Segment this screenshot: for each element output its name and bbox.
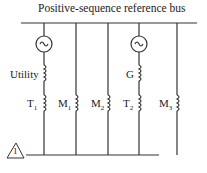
m3-inductor [177,95,179,111]
bus-marker-number: 1 [13,146,18,156]
label-utility: Utility [10,68,39,80]
g-impedance [139,65,141,81]
m2-inductor [108,95,110,111]
label-t2: T2 [123,97,133,112]
t1-inductor [44,95,46,111]
utility-impedance [44,65,46,81]
sequence-network-diagram: Positive-sequence reference bus [0,0,207,173]
label-t1: T1 [27,97,37,112]
label-m1: M1 [58,97,71,112]
label-m3: M3 [159,97,172,112]
label-g: G [126,68,134,80]
network-lines [0,0,207,173]
t2-inductor [139,95,141,111]
m1-inductor [76,95,78,111]
label-m2: M2 [91,97,104,112]
